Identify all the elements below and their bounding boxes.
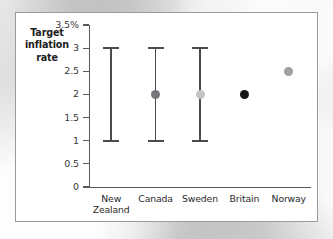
x-axis-category-label: Sweden: [178, 193, 222, 204]
y-tick-label: 2: [73, 89, 79, 99]
x-axis-category-label: Norway: [267, 193, 311, 204]
y-tick-label: 0.5: [64, 159, 79, 169]
range-cap-lower: [103, 140, 119, 142]
y-tick-mark: [83, 140, 89, 141]
category-column: Canada: [134, 13, 178, 223]
chart-card: Target inflation rate 3.5%32.521.510.50 …: [15, 12, 318, 222]
category-label-line: Canada: [134, 193, 178, 204]
y-tick-label: 1.5: [64, 113, 79, 123]
x-axis-category-label: Canada: [134, 193, 178, 204]
y-tick-mark: [83, 48, 89, 49]
category-label-line: Britain: [222, 193, 266, 204]
y-tick-label: 0: [73, 182, 79, 192]
data-point-marker: [151, 90, 160, 99]
y-tick-mark: [83, 94, 89, 95]
range-cap-upper: [192, 47, 208, 49]
category-label-line: Sweden: [178, 193, 222, 204]
x-axis-category-label: Britain: [222, 193, 266, 204]
category-label-line: Norway: [267, 193, 311, 204]
range-cap-upper: [103, 47, 119, 49]
x-axis-category-label: NewZealand: [89, 193, 133, 215]
range-cap-lower: [192, 140, 208, 142]
y-tick-mark: [83, 24, 89, 25]
y-tick-label: 2.5: [64, 66, 79, 76]
data-point-marker: [240, 90, 249, 99]
category-column: Britain: [222, 13, 266, 223]
range-cap-lower: [148, 140, 164, 142]
y-tick-label: 3.5%: [55, 20, 79, 30]
category-column: Norway: [267, 13, 311, 223]
y-tick-mark: [83, 117, 89, 118]
range-bar: [110, 48, 111, 141]
y-tick-mark: [83, 71, 89, 72]
category-column: Sweden: [178, 13, 222, 223]
range-cap-upper: [148, 47, 164, 49]
category-label-line: Zealand: [89, 204, 133, 215]
data-point-marker: [284, 67, 293, 76]
y-tick-label: 3: [73, 43, 79, 53]
category-label-line: New: [89, 193, 133, 204]
category-column: NewZealand: [89, 13, 133, 223]
y-axis-title: Target inflation rate: [18, 27, 76, 64]
plot-area: Target inflation rate 3.5%32.521.510.50 …: [16, 13, 319, 223]
y-tick-label: 1: [73, 136, 79, 146]
y-tick-mark: [83, 186, 89, 187]
data-point-marker: [196, 90, 205, 99]
y-tick-mark: [83, 163, 89, 164]
